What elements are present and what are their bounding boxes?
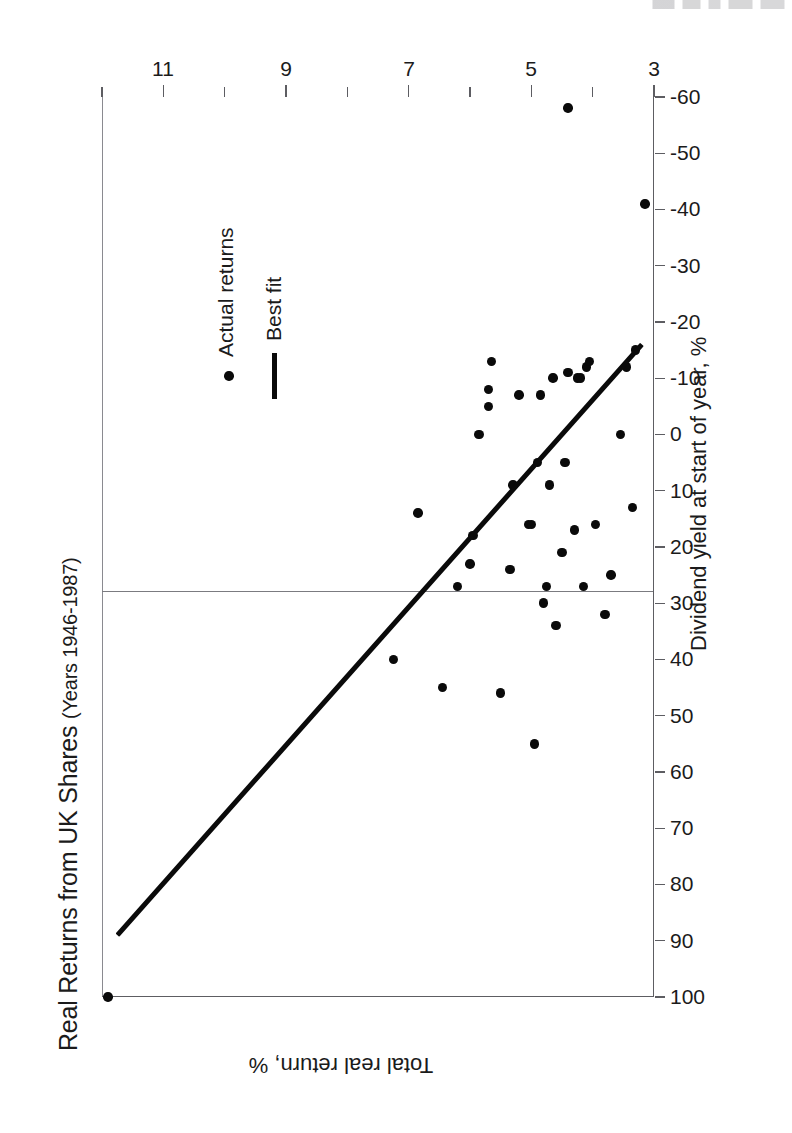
tick-label-yield-7: 7 (403, 57, 415, 81)
tick-label-return-60: 60 (670, 760, 693, 784)
tick-label-return-neg30: -30 (670, 253, 700, 277)
tick-yield-7 (408, 85, 409, 97)
tick-return-neg60 (655, 96, 665, 97)
x-axis-title: Dividend yield at start of year, % (686, 336, 712, 650)
data-point (103, 992, 113, 1002)
data-point (530, 739, 540, 749)
chart-title-main: Real Returns from UK Shares (54, 718, 82, 1050)
tick-label-return-neg20: -20 (670, 310, 700, 334)
zero-reference-line (102, 590, 653, 591)
data-point (413, 508, 423, 518)
data-point (606, 570, 616, 580)
legend-dot-icon (224, 371, 234, 381)
data-point (591, 519, 601, 529)
data-point (557, 547, 567, 557)
legend: Actual returns Best fit (196, 121, 316, 381)
tick-yield-12 (101, 87, 102, 97)
tick-label-return-80: 80 (670, 872, 693, 896)
data-point (542, 581, 552, 591)
tick-label-return-90: 90 (670, 928, 693, 952)
chart-title-subtitle: (Years 1946-1987) (59, 557, 81, 719)
tick-return-10 (655, 490, 665, 491)
data-point (527, 519, 537, 529)
data-point (563, 103, 573, 113)
tick-yield-8 (347, 87, 348, 97)
figure-inner: Real Returns from UK Shares (Years 1946-… (46, 47, 746, 1087)
data-point (600, 609, 610, 619)
data-point (576, 373, 586, 383)
legend-label-best-fit: Best fit (262, 276, 286, 340)
y-axis-title: Total real return, % (249, 1052, 434, 1078)
legend-label-actual-returns: Actual returns (214, 227, 238, 357)
tick-return-90 (655, 940, 665, 941)
tick-return-70 (655, 827, 665, 828)
tick-label-return-neg60: -60 (670, 85, 700, 109)
data-point (465, 559, 475, 569)
cropped-header-ink (648, 0, 788, 9)
tick-return-neg30 (655, 265, 665, 266)
tick-yield-6 (469, 87, 470, 97)
tick-yield-3 (653, 85, 654, 97)
data-point (514, 390, 524, 400)
tick-label-yield-5: 5 (525, 57, 537, 81)
data-point (536, 390, 546, 400)
data-point (474, 429, 484, 439)
tick-return-80 (655, 883, 665, 884)
data-point (505, 564, 515, 574)
data-point (579, 581, 589, 591)
data-point (545, 480, 555, 490)
tick-yield-9 (285, 85, 286, 97)
tick-return-0 (655, 433, 665, 434)
tick-return-60 (655, 771, 665, 772)
tick-label-return-70: 70 (670, 816, 693, 840)
plot-area: 1009080706050403020100-10-20-30-40-50-60… (102, 97, 654, 997)
data-point (487, 356, 497, 366)
data-point (570, 525, 580, 535)
tick-label-return-100: 100 (670, 985, 705, 1009)
data-point (548, 373, 558, 383)
rotated-figure-container: Real Returns from UK Shares (Years 1946-… (46, 47, 746, 1087)
data-point (484, 384, 494, 394)
tick-return-30 (655, 602, 665, 603)
data-point (640, 199, 650, 209)
plot-frame-top (102, 97, 103, 997)
tick-label-return-0: 0 (670, 422, 682, 446)
tick-label-return-neg40: -40 (670, 197, 700, 221)
tick-yield-5 (531, 85, 532, 97)
chart-title: Real Returns from UK Shares (Years 1946-… (54, 351, 83, 1051)
data-point (628, 502, 638, 512)
data-point (560, 457, 570, 467)
tick-yield-11 (163, 85, 164, 97)
tick-return-neg20 (655, 321, 665, 322)
tick-return-40 (655, 658, 665, 659)
scanned-figure-page: Real Returns from UK Shares (Years 1946-… (0, 0, 792, 1133)
tick-label-yield-3: 3 (648, 57, 660, 81)
best-fit-line (116, 342, 644, 936)
dividend-yield-axis (653, 97, 654, 997)
data-point (389, 654, 399, 664)
data-point (616, 429, 626, 439)
data-point (438, 682, 448, 692)
data-point (563, 367, 573, 377)
tick-label-yield-9: 9 (280, 57, 292, 81)
total-real-return-axis (102, 995, 654, 996)
data-point (453, 581, 463, 591)
tick-return-20 (655, 546, 665, 547)
tick-return-neg40 (655, 208, 665, 209)
data-point (539, 598, 549, 608)
legend-line-icon (272, 353, 277, 399)
tick-label-yield-11: 11 (152, 57, 174, 81)
tick-label-return-neg50: -50 (670, 141, 700, 165)
tick-return-neg10 (655, 377, 665, 378)
tick-label-return-50: 50 (670, 703, 693, 727)
tick-yield-10 (224, 87, 225, 97)
tick-yield-4 (592, 87, 593, 97)
tick-return-neg50 (655, 152, 665, 153)
tick-return-100 (655, 996, 665, 997)
data-point (496, 688, 506, 698)
data-point (585, 356, 595, 366)
data-point (551, 621, 561, 631)
tick-return-50 (655, 715, 665, 716)
data-point (484, 401, 494, 411)
